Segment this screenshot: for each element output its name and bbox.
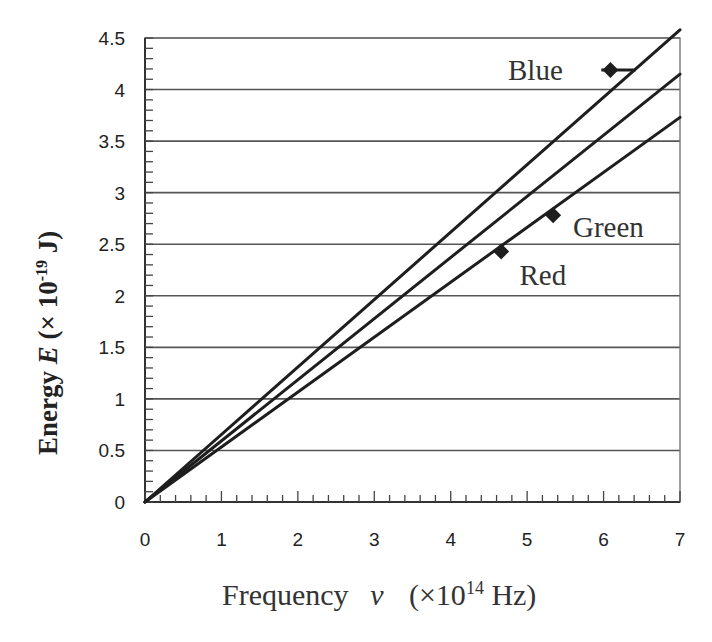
y-tick-label: 3.5 <box>99 131 125 152</box>
y-tick-label: 3 <box>114 183 125 204</box>
diamond-marker <box>545 207 561 223</box>
x-tick-label: 6 <box>598 529 609 550</box>
y-tick-label: 0 <box>114 492 125 513</box>
line-1 <box>145 30 680 502</box>
x-tick-label: 5 <box>522 529 533 550</box>
series-lines <box>145 30 680 502</box>
diamond-marker <box>493 243 509 259</box>
y-tick-label: 2.5 <box>99 234 125 255</box>
diamond-marker <box>602 62 618 78</box>
x-tick-label: 1 <box>216 529 227 550</box>
y-tick-labels: 00.511.522.533.544.5 <box>99 28 126 513</box>
line-3 <box>145 117 680 502</box>
point-label-blue: Blue <box>508 54 563 86</box>
energy-frequency-chart: BlueGreenRed 00.511.522.533.544.5 012345… <box>0 0 712 642</box>
y-axis-label: Energy E (× 10-19 J) <box>33 231 63 455</box>
y-tick-label: 1.5 <box>99 337 125 358</box>
x-tick-label: 2 <box>293 529 304 550</box>
y-tick-label: 4.5 <box>99 28 125 49</box>
x-tick-label: 7 <box>675 529 686 550</box>
y-tick-label: 0.5 <box>99 440 125 461</box>
x-tick-label: 0 <box>140 529 151 550</box>
x-tick-label: 4 <box>445 529 456 550</box>
x-axis-label: Frequency ν (×1014 Hz) <box>222 578 536 612</box>
x-tick-label: 3 <box>369 529 380 550</box>
y-tick-label: 4 <box>114 80 125 101</box>
line-2 <box>145 74 680 502</box>
y-tick-label: 2 <box>114 286 125 307</box>
point-label-red: Red <box>520 259 567 291</box>
point-label-green: Green <box>573 211 644 243</box>
x-tick-labels: 01234567 <box>140 529 686 550</box>
y-tick-label: 1 <box>114 389 125 410</box>
